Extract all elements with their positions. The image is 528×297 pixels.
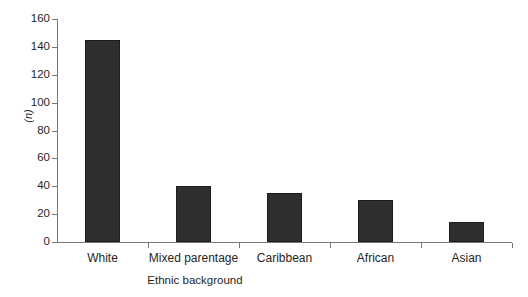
- x-axis-title: Ethnic background: [0, 274, 390, 286]
- x-axis-tick-mark: [330, 243, 331, 248]
- bar: [449, 222, 484, 242]
- y-axis-tick-mark: [52, 75, 58, 76]
- x-axis-tick-mark: [148, 243, 149, 248]
- x-axis-tick-mark: [239, 243, 240, 248]
- y-axis-tick-mark: [52, 103, 58, 104]
- y-axis-tick-mark: [52, 186, 58, 187]
- plot-area: WhiteMixed parentageCaribbeanAfricanAsia…: [0, 0, 528, 297]
- y-axis-tick-mark: [52, 214, 58, 215]
- y-axis-tick-mark: [52, 19, 58, 20]
- bar: [85, 40, 120, 242]
- y-axis-tick-mark: [52, 47, 58, 48]
- x-axis-category-label: Asian: [409, 251, 524, 265]
- bar: [176, 186, 211, 242]
- x-axis-tick-mark: [421, 243, 422, 248]
- y-axis-tick-mark: [52, 242, 58, 243]
- x-axis-tick-mark: [512, 243, 513, 248]
- bar: [267, 193, 302, 242]
- y-axis-tick-mark: [52, 131, 58, 132]
- bar: [358, 200, 393, 242]
- bar-chart: (n) 020406080100120140160 WhiteMixed par…: [0, 0, 528, 297]
- y-axis-tick-mark: [52, 158, 58, 159]
